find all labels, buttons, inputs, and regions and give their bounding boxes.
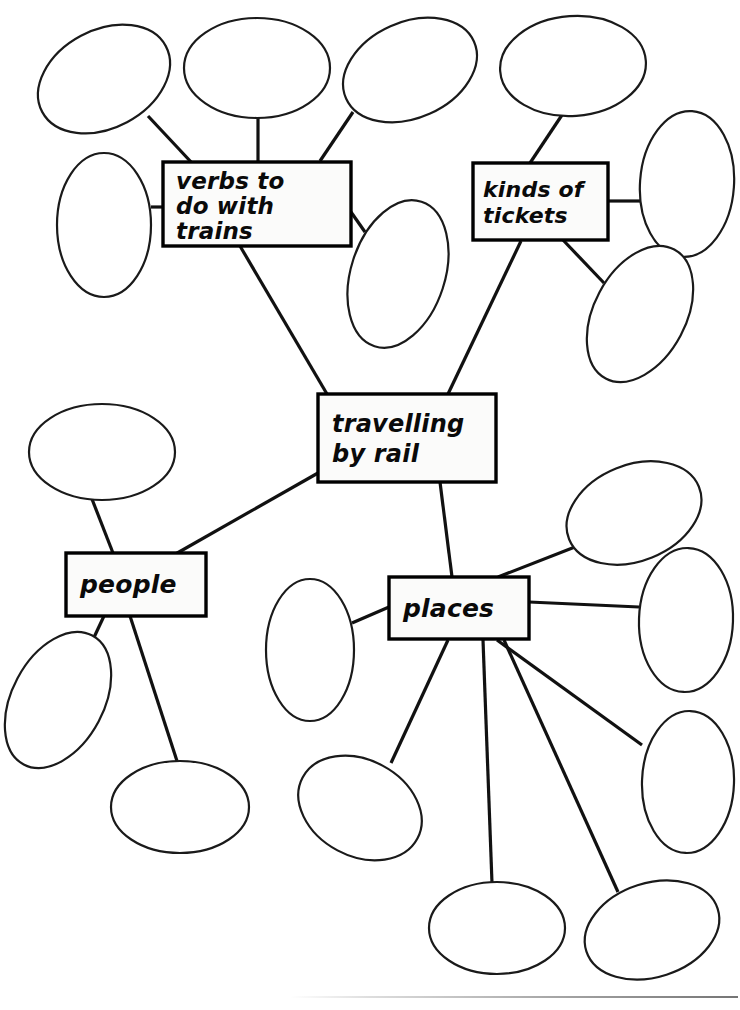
connector-line (320, 112, 353, 161)
scan-edge-artifact (290, 996, 738, 998)
connector-line (240, 246, 327, 394)
blank-answer-bubble[interactable] (29, 404, 175, 500)
connector-line (351, 212, 365, 232)
connector-line (391, 640, 448, 763)
connector-line (563, 240, 604, 283)
connector-line (483, 640, 492, 883)
node-box-places[interactable] (389, 577, 529, 639)
blank-answer-bubble[interactable] (637, 546, 736, 693)
blank-answer-bubble[interactable] (184, 18, 330, 118)
connector-line (448, 241, 521, 394)
blank-answer-bubble[interactable] (266, 579, 354, 721)
blank-answer-bubble[interactable] (0, 614, 133, 786)
blank-answer-bubble[interactable] (111, 761, 249, 853)
node-box-verbs[interactable] (163, 162, 351, 246)
blank-answer-bubble[interactable] (572, 864, 732, 996)
blank-answer-bubble[interactable] (635, 108, 739, 260)
connector-line (130, 616, 177, 761)
node-box-centre[interactable] (318, 394, 496, 482)
connector-line (148, 116, 192, 163)
connector-line (529, 602, 639, 607)
node-box-people[interactable] (66, 553, 206, 616)
worksheet-page: verbs to do with trainskinds of ticketst… (0, 0, 740, 1010)
blank-answer-bubble[interactable] (497, 11, 650, 121)
connector-line (90, 494, 113, 553)
blank-answer-bubble[interactable] (280, 735, 440, 881)
mind-map-canvas (0, 0, 740, 1010)
bubble-layer (0, 0, 739, 996)
blank-answer-bubble[interactable] (640, 709, 737, 854)
blank-answer-bubble[interactable] (327, 0, 494, 142)
connector-line (497, 640, 642, 745)
blank-answer-bubble[interactable] (429, 882, 565, 974)
connector-line (504, 640, 618, 892)
connector-line (172, 473, 318, 556)
node-box-tickets[interactable] (473, 163, 608, 240)
connector-line (440, 482, 452, 577)
connector-line (352, 607, 389, 623)
connector-line (530, 115, 562, 163)
connector-line (498, 545, 580, 577)
blank-answer-bubble[interactable] (57, 153, 151, 297)
